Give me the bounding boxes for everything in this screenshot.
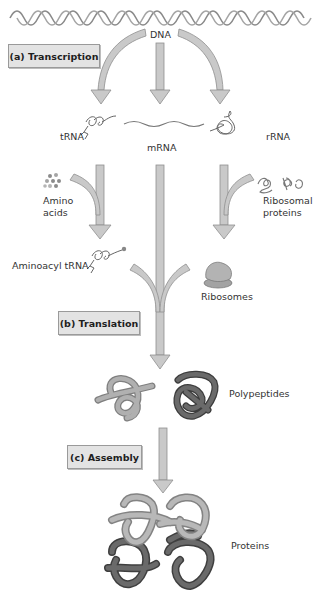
label-amino-acids-line2: acids (43, 207, 73, 219)
label-trna: tRNA (60, 131, 84, 143)
label-ribosomal-proteins: Ribosomal proteins (263, 195, 313, 219)
ribosome-icon (204, 262, 232, 288)
label-ribosomal-proteins-line2: proteins (263, 207, 313, 219)
label-amino-acids: Amino acids (43, 195, 73, 219)
aminoacyl-trna-icon (87, 247, 126, 273)
protein-complex-icon (108, 497, 210, 586)
ribosomal-proteins-icon (258, 178, 302, 193)
label-dna: DNA (150, 29, 171, 41)
arrow-to-proteins-icon (153, 428, 173, 493)
polypeptide-dark-icon (177, 374, 215, 416)
label-mrna: mRNA (147, 142, 176, 154)
rrna-molecule-icon (210, 111, 235, 134)
mrna-strand-icon (124, 122, 204, 127)
label-amino-acids-line1: Amino (43, 195, 73, 207)
label-polypeptides: Polypeptides (229, 388, 290, 400)
trna-molecule-icon (81, 116, 116, 139)
arrow-dna-to-mrna-icon (150, 43, 170, 104)
amino-acids-icon (43, 173, 61, 188)
polypeptide-light-icon (98, 379, 152, 418)
arrow-to-polypeptides-icon (130, 165, 190, 369)
label-aminoacyl-trna: Aminoacyl tRNA (12, 260, 88, 272)
stage-assembly-label: (c) Assembly (67, 445, 142, 469)
arrow-dna-to-rrna-icon (178, 29, 230, 104)
stage-transcription-label: (a) Transcription (8, 44, 100, 68)
label-proteins: Proteins (231, 540, 269, 552)
arrow-to-ribosomes-icon (213, 165, 254, 239)
dna-helix-icon (10, 11, 311, 25)
stage-translation-label: (b) Translation (58, 311, 140, 335)
label-rrna: rRNA (266, 131, 290, 143)
label-ribosomes: Ribosomes (201, 291, 253, 303)
label-ribosomal-proteins-line1: Ribosomal (263, 195, 313, 207)
diagram-canvas (0, 0, 316, 604)
arrow-to-aminoacyl-trna-icon (70, 165, 111, 239)
